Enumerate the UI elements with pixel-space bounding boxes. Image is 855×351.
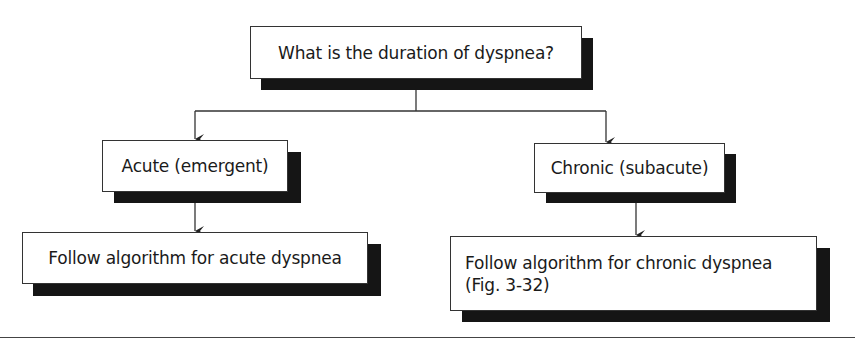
acute-box: Acute (emergent)	[102, 140, 288, 192]
chronic-label: Chronic (subacute)	[551, 157, 709, 179]
chronic-action-box: Follow algorithm for chronic dyspnea (Fi…	[450, 236, 817, 311]
bottom-rule	[0, 337, 855, 338]
chronic-action-label: Follow algorithm for chronic dyspnea (Fi…	[465, 252, 772, 296]
acute-label: Acute (emergent)	[122, 155, 269, 177]
chronic-box: Chronic (subacute)	[534, 143, 725, 193]
acute-action-box: Follow algorithm for acute dyspnea	[22, 232, 368, 284]
acute-action-label: Follow algorithm for acute dyspnea	[48, 247, 341, 269]
question-label: What is the duration of dyspnea?	[278, 42, 554, 64]
question-box: What is the duration of dyspnea?	[250, 26, 582, 79]
